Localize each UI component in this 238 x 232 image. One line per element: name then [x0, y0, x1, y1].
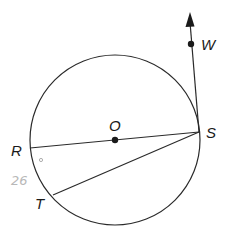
chord-st [53, 132, 199, 195]
label-s: S [206, 124, 216, 141]
arrowhead-icon [186, 12, 195, 27]
ray-sw [190, 22, 199, 132]
geometry-diagram: O W S R T 26 [0, 0, 238, 232]
label-r: R [11, 142, 22, 159]
degree-mark-icon [39, 158, 42, 161]
label-t: T [35, 195, 46, 212]
label-w: W [201, 36, 217, 53]
handwritten-angle-note: 26 [11, 173, 28, 188]
point-w [188, 41, 194, 47]
point-o [112, 137, 118, 143]
label-o: O [109, 117, 121, 134]
